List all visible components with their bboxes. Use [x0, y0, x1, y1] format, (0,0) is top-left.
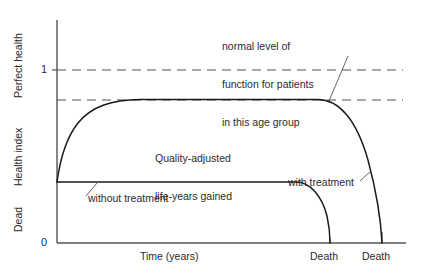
- y-axis-label-perfect-health: Perfect health: [12, 33, 25, 98]
- x-tick-label-death-first: Death: [310, 250, 338, 263]
- y-tick-label-zero: 0: [41, 236, 47, 249]
- y-axis-label-dead: Dead: [12, 207, 25, 232]
- annotation-normal-level-line-2: function for patients: [222, 78, 314, 91]
- with-treatment-leader-line: [360, 172, 370, 181]
- y-axis-label-health-index: Health index: [12, 128, 25, 186]
- x-axis-title: Time (years): [140, 250, 199, 263]
- normal-level-leader-line: [329, 56, 348, 101]
- qaly-chart: Perfect health Health index Dead 1 0 Tim…: [0, 0, 422, 280]
- annotation-quality-adjusted-life-years: Quality-adjusted life-years gained: [155, 126, 232, 228]
- annotation-with-treatment: with treatment: [288, 176, 354, 189]
- x-tick-label-death-second: Death: [362, 250, 390, 263]
- annotation-normal-level-of-function: normal level of function for patients in…: [222, 14, 314, 155]
- annotation-qaly-line-1: Quality-adjusted: [155, 152, 232, 165]
- y-tick-label-one: 1: [41, 63, 47, 76]
- annotation-normal-level-line-1: normal level of: [222, 40, 314, 53]
- annotation-without-treatment: without treatment: [88, 192, 169, 205]
- annotation-normal-level-line-3: in this age group: [222, 116, 314, 129]
